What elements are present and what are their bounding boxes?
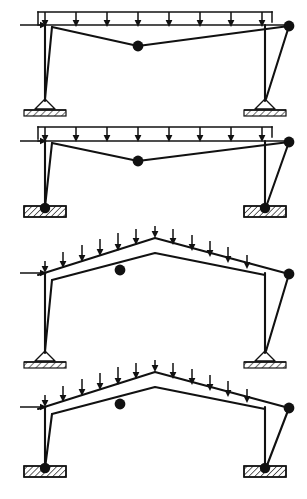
load-arrow (73, 127, 80, 142)
load-arrow (97, 373, 104, 390)
load-arrow (259, 127, 266, 142)
sagging-tie-beam (52, 142, 289, 161)
right-support-fixed-pin (244, 203, 286, 217)
base-pin-dot (260, 203, 270, 213)
base-pin-dot (40, 463, 50, 473)
load-arrow (197, 127, 204, 142)
structural-frame-figure (0, 0, 307, 499)
gabled-roof-outer (38, 372, 289, 409)
right-eaves-hinge (284, 269, 295, 280)
right-eaves-hinge (284, 403, 295, 414)
right-brace (266, 408, 289, 468)
load-arrow (207, 375, 214, 391)
base-pin-dot (260, 463, 270, 473)
gabled-roof-outer (38, 238, 289, 275)
load-arrow (135, 127, 142, 142)
load-arrow (104, 127, 111, 142)
right-brace (266, 26, 289, 99)
load-arrow (207, 241, 214, 257)
load-arrow (225, 381, 232, 397)
mid-span-hinge (133, 156, 144, 167)
right-brace (266, 142, 289, 207)
load-arrow (228, 127, 235, 142)
ground-hatch (24, 362, 66, 368)
right-support-fixed-pin (244, 463, 286, 477)
load-arrow (152, 360, 159, 372)
right-eaves-hinge (284, 21, 295, 32)
load-arrow (166, 127, 173, 142)
ground-hatch (244, 110, 286, 116)
base-pin-dot (40, 203, 50, 213)
left-chord-hinge (115, 399, 126, 410)
ground-hatch (244, 362, 286, 368)
panel-1-group (20, 12, 294, 116)
panel-4-group (20, 360, 294, 477)
frame-diagram-canvas (0, 0, 307, 499)
load-arrow (225, 247, 232, 263)
load-arrow (152, 226, 159, 238)
load-arrow (97, 239, 104, 256)
left-support-fixed-pin (24, 203, 66, 217)
panel-2-distributed-load (38, 127, 272, 142)
left-chord-hinge (115, 265, 126, 276)
sagging-tie-beam (52, 26, 289, 46)
panel-3-group (20, 226, 294, 368)
ground-hatch (24, 110, 66, 116)
panel-2-group (20, 127, 294, 217)
right-eaves-hinge (284, 137, 295, 148)
right-brace (266, 274, 289, 351)
mid-span-hinge (133, 41, 144, 52)
left-support-fixed-pin (24, 463, 66, 477)
